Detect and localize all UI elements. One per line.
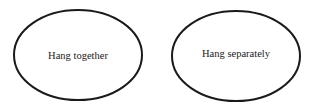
node-hang-separately: Hang separately: [172, 11, 300, 101]
diagram-canvas: Hang together Hang separately: [0, 0, 315, 112]
node-label: Hang together: [48, 50, 108, 61]
node-hang-together: Hang together: [14, 10, 142, 100]
node-label: Hang separately: [202, 48, 271, 59]
